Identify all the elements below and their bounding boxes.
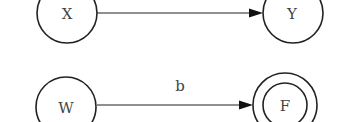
- edge-label: b: [175, 77, 185, 95]
- state-node-w: W: [36, 77, 96, 122]
- state-node-y: Y: [263, 0, 323, 43]
- arrowhead-icon: [239, 101, 253, 110]
- node-label: F: [280, 97, 290, 115]
- state-diagram: b X Y W F: [0, 0, 341, 122]
- state-node-f-accepting: F: [253, 73, 317, 122]
- state-node-x: X: [37, 0, 97, 43]
- edge-w-to-f: b: [97, 77, 253, 110]
- node-label: Y: [286, 5, 298, 23]
- edge-x-to-y: [97, 9, 263, 18]
- node-label: W: [58, 99, 74, 117]
- node-label: X: [62, 5, 73, 23]
- arrowhead-icon: [249, 9, 263, 18]
